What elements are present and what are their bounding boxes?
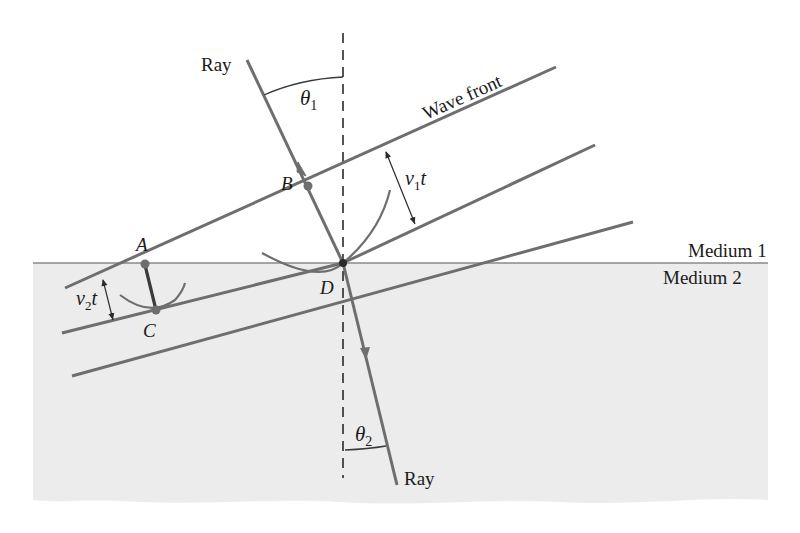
wavelet-arc-b [262, 190, 390, 272]
label-medium-1: Medium 1 [688, 240, 767, 261]
label-v1t: v1t [405, 167, 426, 193]
point-d-marker [339, 259, 347, 267]
label-point-d: D [319, 277, 334, 298]
medium-2-region [33, 263, 768, 504]
label-point-c: C [143, 320, 156, 341]
label-point-a: A [134, 234, 148, 255]
label-theta1: θ1 [300, 86, 317, 113]
label-point-b: B [281, 173, 293, 194]
point-c-marker [152, 306, 161, 315]
incident-ray-arrow-icon [297, 162, 306, 176]
refraction-diagram: Ray Ray Wave front Medium 1 Medium 2 A B… [0, 0, 800, 533]
wave-front-line-2 [343, 145, 595, 263]
label-ray-in: Ray [201, 54, 232, 75]
point-b-marker [304, 182, 313, 191]
incident-ray [247, 60, 343, 263]
label-medium-2: Medium 2 [663, 267, 742, 288]
label-ray-out: Ray [404, 468, 435, 489]
point-a-marker [141, 260, 150, 269]
